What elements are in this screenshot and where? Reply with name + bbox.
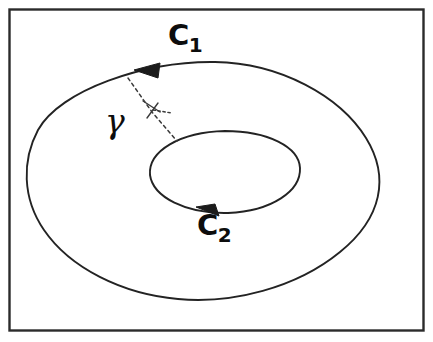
- curve-label-c1-subscript: 1: [189, 33, 202, 57]
- curve-label-c1-letter: C: [168, 18, 189, 52]
- figure-container: C1 C2 γ: [0, 0, 433, 342]
- curve-label-c2-letter: C: [197, 208, 218, 242]
- curve-label-c2-subscript: 2: [218, 223, 231, 247]
- cut-label-gamma: γ: [105, 105, 125, 138]
- diagram-canvas: [0, 0, 433, 342]
- figure-border: [10, 10, 424, 331]
- curve-label-c1: C1: [168, 21, 202, 55]
- curve-label-c2: C2: [197, 211, 231, 245]
